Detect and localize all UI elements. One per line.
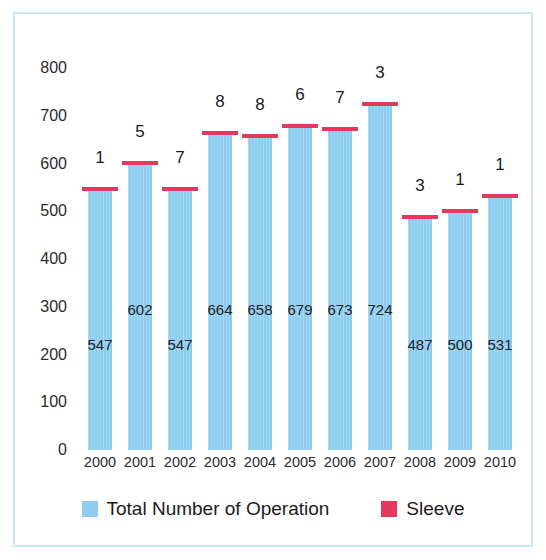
sleeve-marker[interactable] xyxy=(242,134,278,138)
x-axis-tick-label: 2006 xyxy=(324,454,356,470)
sleeve-marker[interactable] xyxy=(202,131,238,135)
sleeve-marker[interactable] xyxy=(82,187,118,191)
bar-group[interactable]: 4873 xyxy=(408,68,432,450)
y-axis: 8007006005004003002001000 xyxy=(15,14,67,450)
x-axis-tick-label: 2002 xyxy=(164,454,196,470)
sleeve-marker[interactable] xyxy=(362,102,398,106)
legend-label: Sleeve xyxy=(406,498,464,520)
sleeve-marker[interactable] xyxy=(402,215,438,219)
x-axis-tick-label: 2001 xyxy=(124,454,156,470)
bar-group[interactable]: 5311 xyxy=(488,68,512,450)
bar-total-operations[interactable] xyxy=(488,196,512,450)
plot-area: 5471602554776648658867966737724348735001… xyxy=(80,68,520,450)
bar-group[interactable]: 6648 xyxy=(208,68,232,450)
sleeve-marker[interactable] xyxy=(322,127,358,131)
bar-group[interactable]: 6737 xyxy=(328,68,352,450)
legend-item[interactable]: Total Number of Operation xyxy=(82,498,330,520)
sleeve-marker[interactable] xyxy=(122,161,158,165)
y-axis-tick-label: 200 xyxy=(21,346,67,364)
bar-value-label: 547 xyxy=(87,336,112,353)
y-axis-tick-label: 400 xyxy=(21,250,67,268)
bar-total-operations[interactable] xyxy=(288,126,312,450)
y-axis-tick-label: 800 xyxy=(21,59,67,77)
sleeve-value-label: 5 xyxy=(135,122,144,142)
y-axis-tick-label: 700 xyxy=(21,107,67,125)
bar-group[interactable]: 6588 xyxy=(248,68,272,450)
sleeve-value-label: 3 xyxy=(415,176,424,196)
sleeve-value-label: 1 xyxy=(495,155,504,175)
y-axis-tick-label: 300 xyxy=(21,298,67,316)
bar-value-label: 664 xyxy=(207,301,232,318)
bar-value-label: 487 xyxy=(407,336,432,353)
bar-group[interactable]: 5001 xyxy=(448,68,472,450)
bar-value-label: 679 xyxy=(287,301,312,318)
x-axis-tick-label: 2000 xyxy=(84,454,116,470)
x-axis-tick-label: 2003 xyxy=(204,454,236,470)
bar-total-operations[interactable] xyxy=(368,104,392,450)
bar-group[interactable]: 5471 xyxy=(88,68,112,450)
bar-group[interactable]: 6025 xyxy=(128,68,152,450)
sleeve-value-label: 3 xyxy=(375,63,384,83)
x-axis-tick-label: 2005 xyxy=(284,454,316,470)
legend-item[interactable]: Sleeve xyxy=(381,498,464,520)
sleeve-marker[interactable] xyxy=(282,124,318,128)
bar-total-operations[interactable] xyxy=(208,133,232,450)
sleeve-marker[interactable] xyxy=(482,194,518,198)
legend-label: Total Number of Operation xyxy=(107,498,330,520)
legend-swatch-icon xyxy=(82,501,98,517)
bar-group[interactable]: 7243 xyxy=(368,68,392,450)
bar-value-label: 602 xyxy=(127,301,152,318)
sleeve-value-label: 7 xyxy=(335,88,344,108)
bar-total-operations[interactable] xyxy=(248,136,272,450)
bar-value-label: 547 xyxy=(167,336,192,353)
bar-value-label: 673 xyxy=(327,301,352,318)
sleeve-marker[interactable] xyxy=(162,187,198,191)
bar-total-operations[interactable] xyxy=(448,211,472,450)
bar-total-operations[interactable] xyxy=(88,189,112,450)
legend-swatch-icon xyxy=(381,501,397,517)
sleeve-value-label: 8 xyxy=(255,95,264,115)
sleeve-value-label: 7 xyxy=(175,148,184,168)
x-axis-tick-label: 2007 xyxy=(364,454,396,470)
y-axis-tick-label: 600 xyxy=(21,155,67,173)
bar-total-operations[interactable] xyxy=(408,217,432,450)
x-axis-tick-label: 2010 xyxy=(484,454,516,470)
x-axis-tick-label: 2004 xyxy=(244,454,276,470)
y-axis-tick-label: 500 xyxy=(21,202,67,220)
chart-frame: 8007006005004003002001000 54716025547766… xyxy=(13,12,533,547)
x-axis: 2000200120022003200420052006200720082009… xyxy=(80,454,520,476)
bar-total-operations[interactable] xyxy=(328,129,352,450)
bar-value-label: 531 xyxy=(487,336,512,353)
sleeve-value-label: 8 xyxy=(215,92,224,112)
sleeve-value-label: 1 xyxy=(455,170,464,190)
sleeve-marker[interactable] xyxy=(442,209,478,213)
bar-group[interactable]: 5477 xyxy=(168,68,192,450)
bar-value-label: 724 xyxy=(367,301,392,318)
sleeve-value-label: 6 xyxy=(295,85,304,105)
bar-total-operations[interactable] xyxy=(168,189,192,450)
x-axis-tick-label: 2009 xyxy=(444,454,476,470)
x-axis-tick-label: 2008 xyxy=(404,454,436,470)
bar-value-label: 500 xyxy=(447,336,472,353)
bar-group[interactable]: 6796 xyxy=(288,68,312,450)
y-axis-tick-label: 100 xyxy=(21,393,67,411)
chart-legend: Total Number of OperationSleeve xyxy=(15,498,531,520)
bar-value-label: 658 xyxy=(247,301,272,318)
y-axis-tick-label: 0 xyxy=(21,441,67,459)
sleeve-value-label: 1 xyxy=(95,148,104,168)
